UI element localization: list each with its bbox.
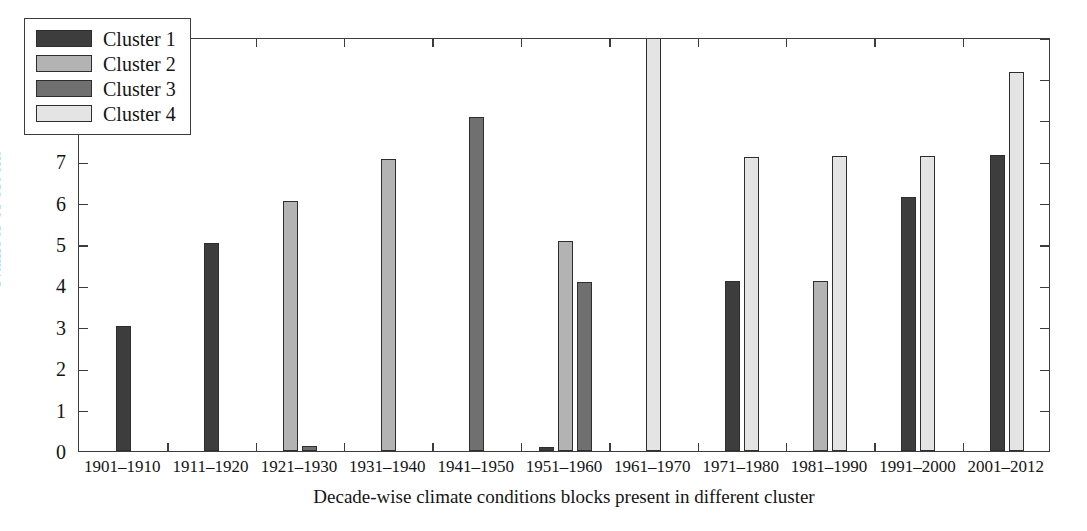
x-tick-label: 1901–1910	[84, 456, 161, 478]
x-axis-title: Decade-wise climate conditions blocks pr…	[78, 486, 1050, 508]
y-tick-mark-right	[1040, 328, 1049, 329]
x-tick-mark-top	[874, 39, 875, 47]
bar-chart-figure: Number of blocks 012345678910 1901–19101…	[0, 0, 1087, 531]
plot-frame	[78, 38, 1050, 452]
y-tick-mark	[79, 245, 88, 246]
bar[interactable]	[204, 243, 219, 451]
y-tick-mark	[79, 328, 88, 329]
legend-label: Cluster 4	[103, 104, 176, 124]
legend: Cluster 1Cluster 2Cluster 3Cluster 4	[24, 18, 191, 135]
y-axis-title: Number of blocks	[0, 38, 5, 398]
legend-label: Cluster 2	[103, 54, 176, 74]
y-tick-mark-right	[1040, 370, 1049, 371]
y-tick-mark	[79, 370, 88, 371]
x-tick-mark	[521, 443, 522, 451]
x-tick-label: 1911–1920	[173, 456, 249, 478]
legend-label: Cluster 1	[103, 29, 176, 49]
bar[interactable]	[283, 201, 298, 451]
bar[interactable]	[558, 241, 573, 451]
y-tick-mark-right	[1040, 121, 1049, 122]
legend-swatch-icon	[36, 30, 92, 47]
legend-item[interactable]: Cluster 2	[36, 51, 176, 76]
x-tick-mark	[344, 443, 345, 451]
legend-item[interactable]: Cluster 1	[36, 26, 176, 51]
y-tick-mark-right	[1040, 163, 1049, 164]
y-tick-mark-right	[1040, 287, 1049, 288]
x-tick-mark	[167, 443, 168, 451]
x-tick-label: 1991–2000	[879, 456, 956, 478]
bar[interactable]	[577, 282, 592, 451]
x-tick-label: 1941–1950	[437, 456, 514, 478]
bar[interactable]	[116, 326, 131, 451]
x-tick-mark	[698, 443, 699, 451]
bar[interactable]	[725, 281, 740, 451]
x-tick-label: 2001–2012	[968, 456, 1045, 478]
y-tick-mark	[79, 411, 88, 412]
x-tick-mark-top	[786, 39, 787, 47]
bar[interactable]	[813, 281, 828, 451]
bar[interactable]	[832, 156, 847, 451]
y-tick-mark-right	[1040, 80, 1049, 81]
bar[interactable]	[920, 156, 935, 451]
y-tick-mark	[79, 163, 88, 164]
x-tick-mark	[256, 443, 257, 451]
x-tick-label: 1921–1930	[261, 456, 338, 478]
bar[interactable]	[901, 197, 916, 451]
bar[interactable]	[302, 446, 317, 451]
x-tick-label: 1931–1940	[349, 456, 426, 478]
x-axis-tick-labels: 1901–19101911–19201921–19301931–19401941…	[78, 456, 1050, 482]
bar[interactable]	[646, 39, 661, 451]
x-tick-label: 1981–1990	[791, 456, 868, 478]
legend-item[interactable]: Cluster 4	[36, 101, 176, 126]
bar[interactable]	[744, 157, 759, 451]
x-tick-mark-top	[963, 39, 964, 47]
x-tick-mark	[609, 443, 610, 451]
legend-swatch-icon	[36, 105, 92, 122]
legend-swatch-icon	[36, 55, 92, 72]
bar[interactable]	[539, 447, 554, 451]
x-tick-label: 1961–1970	[614, 456, 691, 478]
x-tick-mark-top	[698, 39, 699, 47]
plot-area	[79, 39, 1049, 451]
legend-label: Cluster 3	[103, 79, 176, 99]
x-tick-mark-top	[432, 39, 433, 47]
bar[interactable]	[990, 155, 1005, 451]
x-tick-mark	[786, 443, 787, 451]
x-tick-mark-top	[344, 39, 345, 47]
y-tick-mark-right	[1040, 245, 1049, 246]
x-tick-mark-top	[609, 39, 610, 47]
x-tick-mark	[432, 443, 433, 451]
x-tick-mark	[963, 443, 964, 451]
x-tick-label: 1971–1980	[702, 456, 779, 478]
x-tick-mark-top	[521, 39, 522, 47]
bar[interactable]	[1009, 72, 1024, 451]
y-tick-mark-right	[1040, 39, 1049, 40]
x-tick-mark-top	[256, 39, 257, 47]
legend-item[interactable]: Cluster 3	[36, 76, 176, 101]
x-tick-mark	[874, 443, 875, 451]
bar[interactable]	[381, 159, 396, 451]
y-tick-mark	[79, 204, 88, 205]
legend-swatch-icon	[36, 80, 92, 97]
y-tick-mark	[79, 287, 88, 288]
y-tick-mark-right	[1040, 411, 1049, 412]
x-tick-label: 1951–1960	[526, 456, 603, 478]
y-tick-mark-right	[1040, 204, 1049, 205]
bar[interactable]	[469, 117, 484, 451]
